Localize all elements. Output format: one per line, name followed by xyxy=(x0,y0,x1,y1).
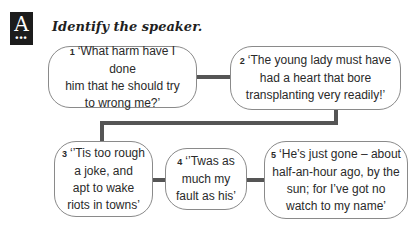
quote-line: him that he should try xyxy=(65,79,180,93)
page-title: Identify the speaker. xyxy=(52,19,202,34)
connector-3-up xyxy=(100,121,104,142)
quote-box-5: 5‘He’s just gone – about half-an-hour ag… xyxy=(264,141,408,219)
quote-line: apt to wake xyxy=(73,181,134,195)
quote-line: much my xyxy=(182,172,231,186)
connector-4-5 xyxy=(246,178,265,182)
quote-number: 1 xyxy=(70,47,75,57)
connector-2-3-horizontal xyxy=(100,121,338,125)
quote-line: ‘What harm have I done xyxy=(78,44,175,76)
quote-line: riots in towns’ xyxy=(67,198,140,212)
quote-box-2: 2‘The young lady must have had a heart t… xyxy=(230,46,401,110)
quote-line: to wrong me?’ xyxy=(85,96,160,110)
logo-dots: ••• xyxy=(10,34,33,42)
quote-number: 2 xyxy=(240,56,245,66)
connector-1-2 xyxy=(196,75,230,79)
quote-line: fault as his’ xyxy=(176,189,236,203)
quote-line: sun; for I’ve got no xyxy=(287,182,386,196)
activity-logo-icon: A ••• xyxy=(10,12,33,45)
quote-line: transplanting very readily!’ xyxy=(246,88,385,102)
quote-line: watch to my name’ xyxy=(286,199,386,213)
quote-number: 3 xyxy=(62,149,67,159)
quote-line: ‘’Tis too rough xyxy=(70,146,145,160)
quote-line: a joke, and xyxy=(74,164,133,178)
quote-box-4: 4‘’Twas as much my fault as his’ xyxy=(165,148,247,210)
quote-number: 4 xyxy=(177,157,182,167)
quote-box-1: 1‘What harm have I done him that he shou… xyxy=(48,46,197,108)
quote-line: ‘The young lady must have xyxy=(248,53,391,67)
quote-line: ‘’Twas as xyxy=(185,154,234,168)
quote-number: 5 xyxy=(271,150,276,160)
quote-line: half-an-hour ago, by the xyxy=(272,165,399,179)
connector-3-4 xyxy=(152,178,166,182)
logo-letter: A xyxy=(10,13,33,35)
quote-line: had a heart that bore xyxy=(260,71,371,85)
quote-box-3: 3‘’Tis too rough a joke, and apt to wake… xyxy=(54,141,153,217)
quote-line: ‘He’s just gone – about xyxy=(279,147,401,161)
